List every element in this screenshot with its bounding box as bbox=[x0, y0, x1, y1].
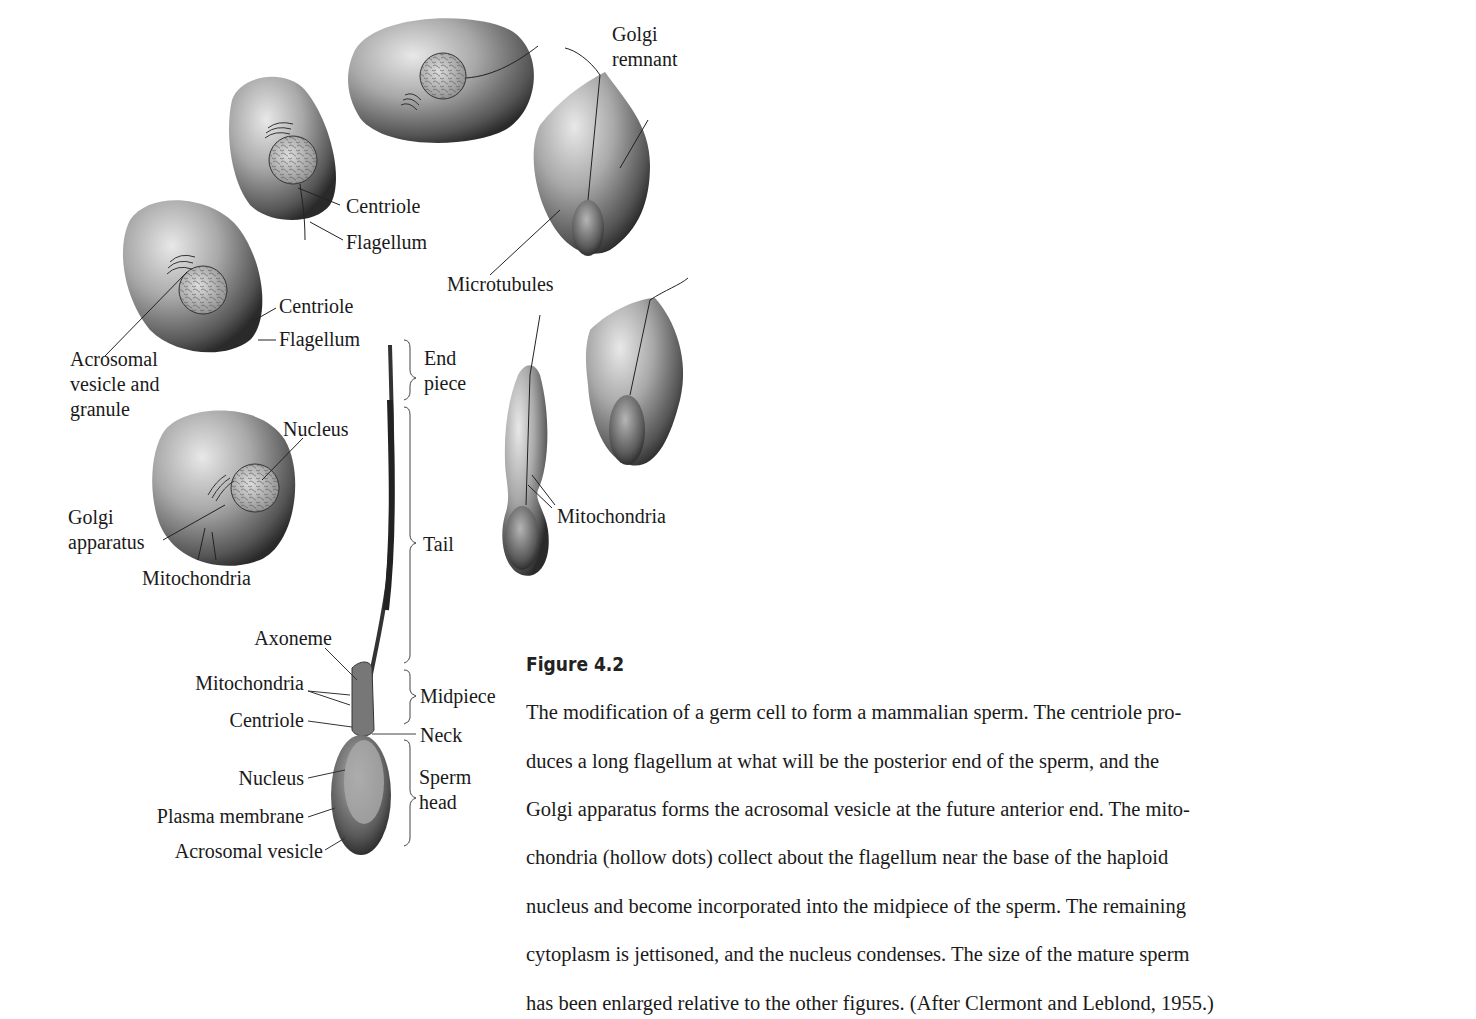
label-plasma-membrane: Plasma membrane bbox=[100, 804, 304, 829]
label-centriole-1: Centriole bbox=[346, 194, 420, 219]
label-centriole-sperm: Centriole bbox=[180, 708, 304, 733]
caption-line: duces a long flagellum at what will be t… bbox=[526, 749, 1426, 773]
caption-line: nucleus and become incorporated into the… bbox=[526, 894, 1426, 918]
label-acrosomal-vesicle: Acrosomal vesicle bbox=[120, 839, 323, 864]
label-centriole-2: Centriole bbox=[279, 294, 353, 319]
label-mitochondria-spermatid: Mitochondria bbox=[557, 504, 666, 529]
caption-line: Golgi apparatus forms the acrosomal vesi… bbox=[526, 797, 1426, 821]
elongating-spermatid-3 bbox=[502, 315, 555, 576]
label-golgi-remnant: Golgi remnant bbox=[612, 22, 678, 72]
label-acrosomal-vesicle-granule: Acrosomal vesicle and granule bbox=[70, 347, 159, 422]
label-end-piece: End piece bbox=[424, 346, 466, 396]
figure-caption: Figure 4.2 The modification of a germ ce… bbox=[526, 652, 1426, 1019]
label-sperm-head: Sperm head bbox=[419, 765, 471, 815]
label-nucleus-cell: Nucleus bbox=[283, 417, 349, 442]
round-spermatid-2 bbox=[229, 77, 343, 240]
label-flagellum-1: Flagellum bbox=[346, 230, 427, 255]
label-microtubules: Microtubules bbox=[447, 272, 554, 297]
label-nucleus-sperm: Nucleus bbox=[200, 766, 304, 791]
label-neck: Neck bbox=[420, 723, 462, 748]
label-axoneme: Axoneme bbox=[232, 626, 332, 651]
round-spermatid-4 bbox=[152, 411, 303, 566]
figure-number: Figure 4.2 bbox=[526, 652, 1336, 676]
label-flagellum-2: Flagellum bbox=[279, 327, 360, 352]
caption-line: cytoplasm is jettisoned, and the nucleus… bbox=[526, 942, 1426, 966]
label-mitochondria-cell: Mitochondria bbox=[142, 566, 251, 591]
label-mitochondria-sperm: Mitochondria bbox=[150, 671, 304, 696]
round-spermatid-3 bbox=[105, 200, 276, 356]
label-midpiece: Midpiece bbox=[420, 684, 496, 709]
label-tail: Tail bbox=[423, 532, 454, 557]
caption-line: chondria (hollow dots) collect about the… bbox=[526, 845, 1426, 869]
round-spermatid-1 bbox=[348, 18, 538, 143]
caption-line: has been enlarged relative to the other … bbox=[526, 991, 1426, 1015]
elongating-spermatid-2 bbox=[586, 278, 688, 466]
label-golgi-apparatus: Golgi apparatus bbox=[68, 505, 145, 555]
caption-text: The modification of a germ cell to form … bbox=[526, 676, 1426, 1019]
caption-line: The modification of a germ cell to form … bbox=[526, 700, 1426, 724]
